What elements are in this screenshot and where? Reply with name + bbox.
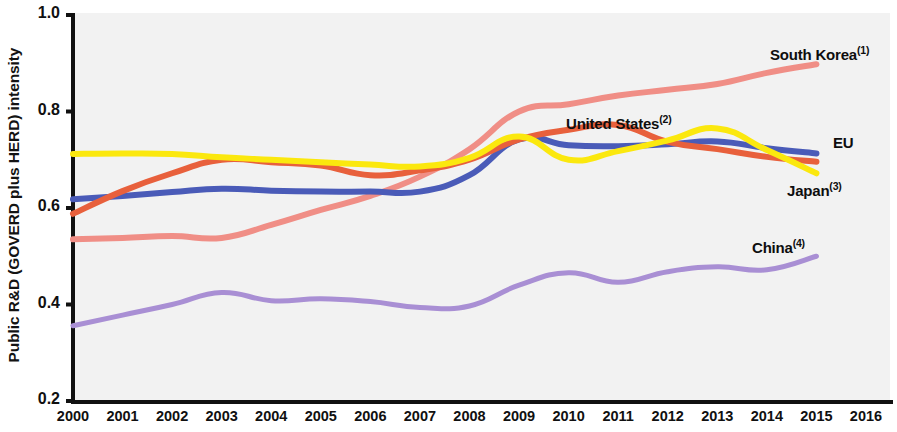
x-tick-label: 2002 bbox=[146, 408, 198, 424]
series-label-text: United States bbox=[566, 115, 659, 132]
x-tick-label: 2011 bbox=[592, 408, 644, 424]
chart-plot-svg bbox=[0, 0, 897, 432]
x-tick-label: 2012 bbox=[642, 408, 694, 424]
x-tick-label: 2015 bbox=[790, 408, 842, 424]
series-label-text: South Korea bbox=[770, 46, 857, 63]
series-label-footnote: (4) bbox=[793, 237, 805, 249]
series-label-footnote: (1) bbox=[857, 44, 869, 56]
series-label-text: EU bbox=[833, 134, 853, 151]
series-label-text: Japan bbox=[787, 182, 829, 199]
x-tick-label: 2009 bbox=[493, 408, 545, 424]
series-label-china: China(4) bbox=[752, 237, 805, 256]
x-tick-label: 2014 bbox=[741, 408, 793, 424]
series-label-text: China bbox=[752, 239, 793, 256]
chart-figure: Public R&D (GOVERD plus HERD) intensity … bbox=[0, 0, 897, 432]
x-tick-label: 2003 bbox=[196, 408, 248, 424]
x-tick-label: 2005 bbox=[295, 408, 347, 424]
x-tick-label: 2010 bbox=[543, 408, 595, 424]
x-tick-label: 2008 bbox=[444, 408, 496, 424]
x-tick-label: 2007 bbox=[394, 408, 446, 424]
series-label-footnote: (3) bbox=[829, 180, 841, 192]
x-tick-label: 2004 bbox=[245, 408, 297, 424]
x-tick-label: 2013 bbox=[691, 408, 743, 424]
series-label-footnote: (2) bbox=[659, 113, 671, 125]
x-tick-label: 2016 bbox=[840, 408, 892, 424]
x-tick-label: 2001 bbox=[97, 408, 149, 424]
series-label-south-korea: South Korea(1) bbox=[770, 44, 869, 63]
series-label-eu: EU bbox=[833, 134, 853, 151]
x-tick-label: 2006 bbox=[344, 408, 396, 424]
x-tick-label: 2000 bbox=[47, 408, 99, 424]
series-label-united-states: United States(2) bbox=[566, 113, 672, 132]
series-label-japan: Japan(3) bbox=[787, 180, 842, 199]
